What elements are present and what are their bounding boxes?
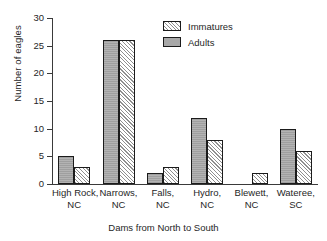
x-axis-title: Dams from North to South bbox=[0, 222, 327, 233]
legend-item-adults: Adults bbox=[163, 35, 283, 49]
bar-immatures-5 bbox=[296, 151, 312, 184]
bar-adults-3 bbox=[191, 118, 207, 184]
x-axis-label-line2: NC bbox=[141, 199, 185, 211]
bar-immatures-0 bbox=[74, 167, 90, 184]
x-axis-label-line1: Narrows, bbox=[99, 187, 137, 198]
x-axis-category-labels: High Rock,NCNarrows,NCFalls,NCHydro,NCBl… bbox=[52, 187, 318, 221]
eagle-count-bar-chart: Number of eagles 051015202530 High Rock,… bbox=[0, 0, 327, 241]
x-axis-label-line1: Blewett, bbox=[235, 187, 269, 198]
y-axis-tick-label: 10 bbox=[33, 123, 44, 134]
hatch-swatch-icon bbox=[163, 21, 181, 31]
x-axis-label-line1: Wateree, bbox=[277, 187, 315, 198]
legend-item-immatures: Immatures bbox=[163, 19, 283, 33]
x-axis-label-5: Wateree,SC bbox=[274, 187, 318, 211]
x-axis-label-line2: NC bbox=[185, 199, 229, 211]
x-axis-label-line2: SC bbox=[274, 199, 318, 211]
bar-immatures-1 bbox=[119, 40, 135, 184]
x-axis-label-line1: Falls, bbox=[151, 187, 174, 198]
y-axis-tick-label: 25 bbox=[33, 40, 44, 51]
x-axis-label-4: Blewett,NC bbox=[229, 187, 273, 211]
x-axis-label-3: Hydro,NC bbox=[185, 187, 229, 211]
bar-adults-0 bbox=[58, 156, 74, 184]
y-axis-title: Number of eagles bbox=[12, 0, 23, 129]
legend-label-adults: Adults bbox=[188, 37, 214, 48]
bar-adults-5 bbox=[280, 129, 296, 184]
y-axis-tick-label: 20 bbox=[33, 67, 44, 78]
x-axis-label-line1: High Rock, bbox=[52, 187, 98, 198]
x-axis-label-line2: NC bbox=[52, 199, 96, 211]
x-axis-label-line2: NC bbox=[229, 199, 273, 211]
bar-immatures-3 bbox=[207, 140, 223, 184]
y-axis-tick-label: 30 bbox=[33, 12, 44, 23]
x-axis-label-1: Narrows,NC bbox=[96, 187, 140, 211]
bar-immatures-4 bbox=[252, 173, 268, 184]
legend-label-immatures: Immatures bbox=[188, 21, 233, 32]
chart-legend: Immatures Adults bbox=[163, 19, 283, 51]
bar-adults-1 bbox=[103, 40, 119, 184]
y-axis-tick-label: 5 bbox=[39, 150, 44, 161]
x-axis-label-0: High Rock,NC bbox=[52, 187, 96, 211]
solid-swatch-icon bbox=[163, 37, 181, 47]
y-axis-tick-label: 15 bbox=[33, 95, 44, 106]
y-axis-tick-label: 0 bbox=[39, 178, 44, 189]
x-axis-label-2: Falls,NC bbox=[141, 187, 185, 211]
x-axis-label-line1: Hydro, bbox=[193, 187, 221, 198]
x-axis-label-line2: NC bbox=[96, 199, 140, 211]
bar-immatures-2 bbox=[163, 167, 179, 184]
bar-adults-2 bbox=[147, 173, 163, 184]
